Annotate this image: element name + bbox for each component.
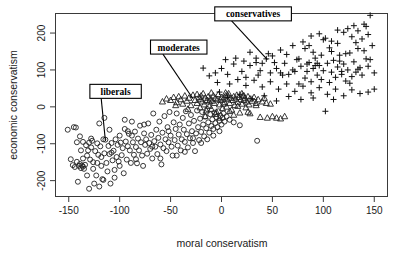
data-point-circle: [196, 125, 201, 130]
data-point-circle: [174, 111, 179, 116]
data-point-circle: [123, 139, 128, 144]
annotation-label: moderates: [158, 43, 201, 53]
x-tick-label: 50: [267, 205, 279, 216]
data-point-circle: [112, 167, 117, 172]
data-point-circle: [92, 181, 97, 186]
data-point-circle: [163, 137, 168, 142]
data-point-circle: [113, 137, 118, 142]
data-point-circle: [151, 111, 156, 116]
data-point-circle: [107, 127, 112, 132]
data-point-circle: [68, 157, 73, 162]
series-conservatives: [200, 12, 377, 114]
data-point-circle: [85, 173, 90, 178]
x-tick-label: -50: [163, 205, 178, 216]
data-point-circle: [186, 121, 191, 126]
annotation-label: liberals: [101, 87, 131, 97]
data-point-circle: [185, 145, 190, 150]
data-point-circle: [133, 145, 138, 150]
y-tick-label: 200: [36, 24, 47, 41]
x-tick-label: 0: [219, 205, 225, 216]
data-point-circle: [161, 146, 166, 151]
data-point-circle: [95, 141, 100, 146]
data-point-circle: [142, 131, 147, 136]
x-tick-label: 100: [315, 205, 332, 216]
data-point-circle: [104, 160, 109, 165]
data-point-circle: [74, 140, 79, 145]
data-point-circle: [190, 136, 195, 141]
data-point-triangle: [264, 115, 270, 121]
data-point-circle: [169, 144, 174, 149]
y-tick-label: -100: [36, 133, 47, 153]
data-point-circle: [192, 118, 197, 123]
data-point-circle: [98, 144, 103, 149]
data-point-circle: [158, 156, 163, 161]
y-tick-label: 100: [36, 61, 47, 78]
data-point-circle: [77, 134, 82, 139]
data-point-circle: [154, 127, 159, 132]
annotation-conservatives: conservatives: [215, 7, 292, 21]
data-point-circle: [162, 114, 167, 119]
data-point-circle: [149, 132, 154, 137]
data-point-circle: [180, 115, 185, 120]
data-point-circle: [155, 152, 160, 157]
data-point-circle: [108, 181, 113, 186]
data-point-circle: [94, 173, 99, 178]
data-point-circle: [156, 135, 161, 140]
annotation-layer: liberalsmoderatesconservatives: [90, 7, 292, 141]
data-point-circle: [159, 162, 164, 167]
y-tick-label: 0: [36, 104, 47, 110]
data-point-circle: [217, 129, 222, 134]
data-point-triangle: [237, 110, 243, 116]
data-point-circle: [141, 163, 146, 168]
data-point-circle: [78, 148, 83, 153]
annotation-label: conservatives: [226, 9, 281, 19]
scatter-plot-figure: -150-100-50050100150 -200-1000100200 lib…: [0, 0, 403, 260]
data-point-circle: [86, 148, 91, 153]
data-point-circle: [106, 143, 111, 148]
data-point-circle: [127, 148, 132, 153]
data-point-circle: [211, 133, 216, 138]
data-point-circle: [122, 117, 127, 122]
data-point-circle: [140, 153, 145, 158]
data-point-circle: [157, 119, 162, 124]
data-point-circle: [175, 143, 180, 148]
annotation-moderates: moderates: [151, 40, 207, 54]
series-liberals: [65, 107, 259, 192]
data-point-circle: [171, 120, 176, 125]
y-axis-title: economic conservatism: [7, 50, 19, 160]
data-point-circle: [195, 108, 200, 113]
data-point-circle: [145, 151, 150, 156]
data-point-circle: [231, 120, 236, 125]
data-point-circle: [102, 151, 107, 156]
data-point-circle: [204, 126, 209, 131]
annotation-leader-line: [101, 98, 105, 140]
y-tick-label: -200: [36, 170, 47, 190]
data-point-circle: [97, 121, 102, 126]
annotation-liberals: liberals: [90, 84, 141, 98]
data-point-circle: [137, 148, 142, 153]
data-point-circle: [160, 130, 165, 135]
data-point-circle: [166, 140, 171, 145]
data-point-circle: [97, 184, 102, 189]
data-point-triangle: [282, 113, 288, 119]
data-point-circle: [128, 160, 133, 165]
x-tick-label: -100: [110, 205, 130, 216]
data-series-layer: [65, 12, 377, 191]
data-point-circle: [164, 149, 169, 154]
data-point-circle: [172, 138, 177, 143]
data-point-circle: [89, 145, 94, 150]
data-point-circle: [109, 141, 114, 146]
data-point-circle: [202, 134, 207, 139]
data-point-circle: [205, 137, 210, 142]
annotation-leader-line: [232, 21, 268, 60]
data-point-circle: [190, 141, 195, 146]
data-point-circle: [255, 138, 260, 143]
x-tick-label: 150: [366, 205, 383, 216]
x-axis-ticks: -150-100-50050100150: [59, 197, 383, 216]
chart-canvas: -150-100-50050100150 -200-1000100200 lib…: [0, 0, 403, 260]
data-point-circle: [112, 175, 117, 180]
data-point-triangle: [257, 114, 263, 120]
data-point-circle: [117, 133, 122, 138]
data-point-circle: [188, 112, 193, 117]
data-point-circle: [199, 129, 204, 134]
